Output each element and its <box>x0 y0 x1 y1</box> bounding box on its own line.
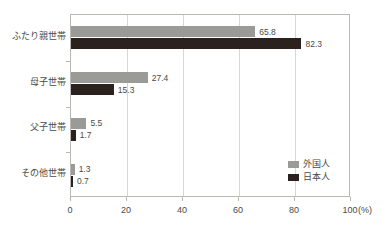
bar-chart: ふたり親世帯母子世帯父子世帯その他世帯 65.882.327.415.35.51… <box>0 0 387 237</box>
x-axis-tick <box>350 197 351 201</box>
legend-label: 外国人 <box>303 160 330 169</box>
x-axis-tick-label: 60 <box>233 206 243 215</box>
category-tick <box>66 61 71 62</box>
legend-item: 日本人 <box>288 172 330 182</box>
bar <box>71 26 255 37</box>
x-axis-tick-label: 100 <box>342 206 357 215</box>
category-tick <box>66 107 71 108</box>
legend-swatch-icon <box>288 161 299 168</box>
category-label: 母子世帯 <box>30 78 66 87</box>
legend-label: 日本人 <box>303 173 330 182</box>
x-axis-tick-label: 40 <box>177 206 187 215</box>
x-axis-tick-label: 80 <box>289 206 299 215</box>
chart-legend: 外国人日本人 <box>288 159 330 185</box>
bar-value-label: 1.3 <box>79 165 91 174</box>
bar-value-label: 0.7 <box>77 177 89 186</box>
category-label: ふたり親世帯 <box>12 32 66 41</box>
x-axis-tick <box>126 197 127 201</box>
x-axis-tick <box>182 197 183 201</box>
bar <box>71 130 76 141</box>
category-axis-labels: ふたり親世帯母子世帯父子世帯その他世帯 <box>0 14 66 197</box>
bar <box>71 84 114 95</box>
legend-item: 外国人 <box>288 159 330 169</box>
x-axis-tick <box>70 197 71 201</box>
x-axis-unit-label: (%) <box>358 206 372 215</box>
bar-value-label: 5.5 <box>90 119 102 128</box>
bar-value-label: 82.3 <box>305 40 322 49</box>
x-axis-tick <box>294 197 295 201</box>
bar <box>71 72 148 83</box>
bar <box>71 176 73 187</box>
x-axis-tick-label: 0 <box>67 206 72 215</box>
x-axis-tick-label: 20 <box>121 206 131 215</box>
category-label: 父子世帯 <box>30 123 66 132</box>
legend-swatch-icon <box>288 174 299 181</box>
category-label: その他世帯 <box>21 169 66 178</box>
category-tick <box>66 152 71 153</box>
bar-value-label: 27.4 <box>152 74 169 83</box>
bar <box>71 38 301 49</box>
x-axis-tick <box>238 197 239 201</box>
bar <box>71 164 75 175</box>
bar-value-label: 1.7 <box>80 131 92 140</box>
bar-value-label: 65.8 <box>259 28 276 37</box>
bar <box>71 118 86 129</box>
bar-value-label: 15.3 <box>118 86 135 95</box>
